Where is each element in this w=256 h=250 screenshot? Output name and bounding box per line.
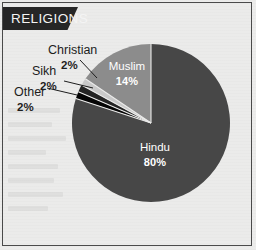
callout-sikh-name: Sikh	[32, 64, 56, 78]
callout-other: Other 2%	[14, 83, 45, 115]
callout-other-value: 2%	[17, 100, 45, 115]
religions-pie-chart-panel: RELIGIONS Muslim 14% Hi	[0, 0, 256, 250]
callout-christian-value: 2%	[61, 58, 97, 73]
page-title: RELIGIONS	[11, 10, 88, 27]
callout-other-name: Other	[14, 85, 45, 99]
callout-christian-name: Christian	[48, 43, 97, 57]
